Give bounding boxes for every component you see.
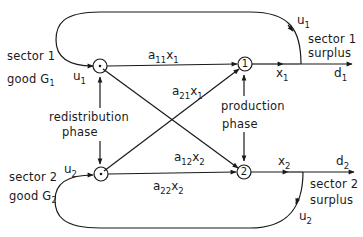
production-phase-label-line1: production [221, 101, 285, 113]
edge-label-x2: x2 [278, 155, 291, 171]
sector-2-surplus-line2: surplus [310, 195, 353, 207]
u2-input-label: u2 [64, 163, 77, 179]
sector-1-surplus-line2: surplus [308, 48, 351, 60]
production-phase-label-line2: phase [222, 119, 258, 131]
sector-2-label: sector 2 [9, 172, 57, 184]
production-node-1-label: 1 [238, 59, 252, 69]
sector-1-surplus-line1: sector 1 [308, 34, 356, 46]
redistribution-phase-label-line2: phase [62, 127, 98, 139]
sector-1-label: sector 1 [7, 51, 55, 63]
edge-label-d1: d1 [334, 67, 347, 83]
sector-1-good-label: good G1 [7, 74, 55, 88]
edge-label-a11x1: a11x1 [148, 49, 179, 65]
edge-label-a21x1: a21x1 [172, 85, 203, 101]
u1-input-label: u1 [73, 70, 86, 86]
sector-2-good-label: good G2 [9, 191, 57, 205]
production-node-2-label: 2 [237, 167, 251, 177]
sector-2-surplus-line1: sector 2 [310, 179, 358, 191]
edge-label-x1: x1 [276, 67, 289, 83]
redistribution-phase-label-line1: redistribution [49, 112, 129, 124]
edge-label-a22x2: a22x2 [153, 180, 184, 196]
loop-label-u1: u1 [297, 14, 310, 30]
loop-label-u2: u2 [299, 210, 312, 226]
edge-a22x2 [108, 172, 236, 174]
edge-label-a12x2: a12x2 [174, 151, 205, 167]
edge-label-d2: d2 [336, 155, 349, 171]
